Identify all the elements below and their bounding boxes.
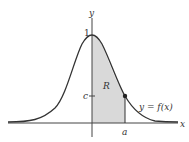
a-label: a [122,127,127,137]
x-axis-label: x [180,119,185,129]
diagram-canvas: y x 1 c R y = f(x) a [0,0,189,142]
region-r-label: R [102,81,110,91]
curve-point [123,94,127,98]
y-axis-label: y [88,8,95,18]
shaded-region-r [92,35,125,123]
peak-value-label: 1 [84,28,90,38]
curve-label: y = f(x) [138,102,173,112]
c-label: c [83,91,88,101]
